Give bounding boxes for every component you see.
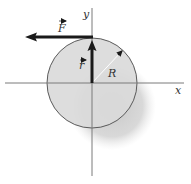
- force-label: F: [57, 22, 66, 35]
- radius-label: R: [107, 67, 116, 80]
- y-axis-label: y: [82, 8, 90, 21]
- position-label: r: [79, 59, 85, 72]
- x-axis-label: x: [175, 84, 182, 97]
- diagram-canvas: y x F r R: [0, 0, 191, 184]
- diagram-svg: y x F r R: [0, 0, 191, 184]
